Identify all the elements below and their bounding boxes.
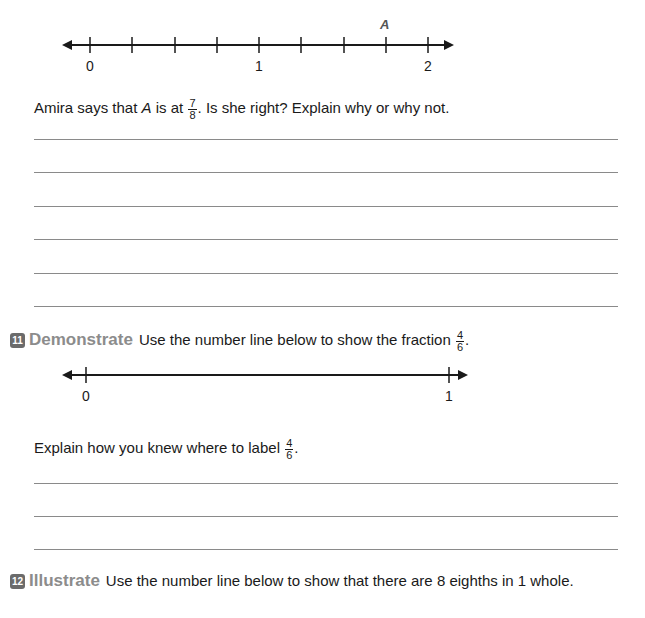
problem-number-badge: 11 (10, 333, 25, 348)
answer-line[interactable] (34, 273, 618, 274)
problem-12-prompt: 12IllustrateUse the number line below to… (10, 572, 574, 590)
tick-label-0: 0 (86, 58, 94, 74)
problem-11-prompt: 11DemonstrateUse the number line below t… (10, 330, 469, 353)
problem-number-badge: 12 (10, 574, 25, 589)
fraction-seven-eighths: 78 (188, 98, 196, 121)
answer-line[interactable] (34, 172, 618, 173)
answer-line[interactable] (34, 549, 618, 550)
fraction-four-sixths: 46 (456, 330, 464, 353)
tick-label-2: 2 (424, 58, 432, 74)
answer-line[interactable] (34, 483, 618, 484)
number-line-0-to-1[interactable] (60, 360, 480, 390)
answer-line[interactable] (34, 206, 618, 207)
point-a-label: A (380, 17, 389, 32)
fraction-four-sixths: 46 (285, 438, 293, 461)
answer-line[interactable] (34, 306, 618, 307)
amira-question: Amira says that A is at 78. Is she right… (34, 98, 449, 121)
problem-keyword: Illustrate (29, 571, 100, 590)
explain-question: Explain how you knew where to label 46. (34, 438, 298, 461)
answer-line[interactable] (34, 239, 618, 240)
tick-label-1: 1 (445, 388, 453, 404)
answer-line[interactable] (34, 139, 618, 140)
answer-line[interactable] (34, 516, 618, 517)
tick-label-0: 0 (82, 388, 90, 404)
problem-keyword: Demonstrate (29, 330, 133, 349)
tick-label-1: 1 (255, 58, 263, 74)
